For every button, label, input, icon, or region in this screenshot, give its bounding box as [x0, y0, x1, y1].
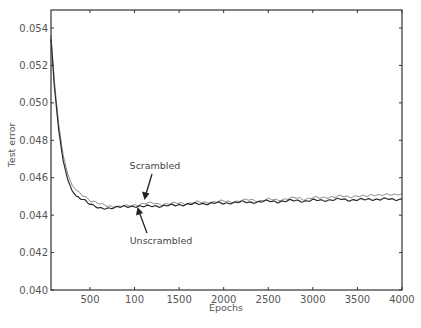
- y-tick-label: 0.052: [19, 60, 48, 71]
- y-tick-label: 0.044: [19, 210, 48, 221]
- y-tick-label: 0.046: [19, 172, 48, 183]
- x-tick-label: 4000: [389, 294, 414, 305]
- y-axis-title: Test error: [6, 123, 17, 169]
- x-tick-label: 3500: [345, 294, 370, 305]
- series-layer: [51, 36, 402, 210]
- x-tick-label: 1500: [166, 294, 191, 305]
- y-tick-label: 0.040: [19, 285, 48, 296]
- y-tick-label: 0.054: [19, 23, 48, 34]
- plot-frame: [51, 10, 402, 290]
- test-error-chart: 0.0400.0420.0440.0460.0480.0500.0520.054…: [0, 0, 421, 328]
- y-tick-label: 0.050: [19, 97, 48, 108]
- annotation-scrambled-arrow-icon: [142, 174, 152, 200]
- annotation-unscrambled-label: Unscrambled: [130, 235, 193, 246]
- x-axis: 500100150020002500300035004000: [80, 10, 414, 305]
- y-tick-label: 0.048: [19, 135, 48, 146]
- x-axis-title: Epochs: [209, 302, 243, 313]
- series-line-scrambled: [51, 36, 402, 208]
- y-tick-label: 0.042: [19, 247, 48, 258]
- y-axis: 0.0400.0420.0440.0460.0480.0500.0520.054: [19, 23, 402, 296]
- x-tick-label: 3000: [300, 294, 325, 305]
- series-line-unscrambled: [51, 39, 402, 209]
- annotation-scrambled-label: Scrambled: [130, 160, 181, 171]
- x-tick-label: 500: [80, 294, 99, 305]
- x-tick-label: 2500: [256, 294, 281, 305]
- x-tick-label: 100: [125, 294, 144, 305]
- annotation-unscrambled-arrow-icon: [136, 207, 147, 233]
